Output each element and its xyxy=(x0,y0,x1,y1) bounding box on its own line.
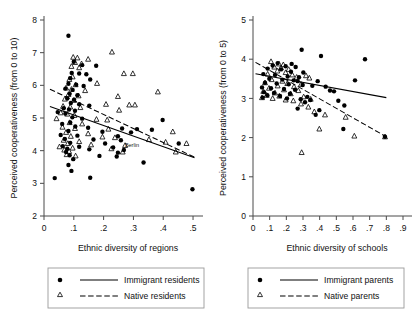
data-point-triangle xyxy=(104,102,109,107)
legend-schools: Immigrant parents Native parents xyxy=(248,268,404,308)
legend-box-regions xyxy=(48,268,204,308)
data-point-triangle xyxy=(83,88,88,93)
data-point-triangle xyxy=(77,139,82,144)
data-point-triangle xyxy=(80,121,85,126)
legend-label-immigrant-parents: Immigrant parents xyxy=(324,275,393,285)
data-point-circle xyxy=(66,163,70,167)
data-point-triangle xyxy=(121,71,126,76)
data-point-circle xyxy=(295,106,299,110)
data-point-triangle xyxy=(130,71,135,76)
annotation-label: Berlin xyxy=(125,142,139,148)
x-ticklabel-regions: .1 xyxy=(70,223,77,233)
x-ticklabel-schools: .5 xyxy=(333,223,340,233)
y-ticklabel-schools: 3 xyxy=(241,94,246,104)
data-point-circle xyxy=(66,33,70,37)
legend-marker-immigrant-parents xyxy=(258,278,263,283)
x-axis-title-schools: Ethnic diversity of schools xyxy=(286,243,388,253)
data-point-circle xyxy=(120,126,124,130)
x-ticklabel-regions: .4 xyxy=(160,223,167,233)
data-point-triangle xyxy=(184,141,189,146)
data-point-triangle xyxy=(71,55,76,60)
data-point-triangle xyxy=(89,142,94,147)
data-point-circle xyxy=(160,118,164,122)
data-point-circle xyxy=(94,64,98,68)
data-point-circle xyxy=(69,169,73,173)
legend-label-native-parents: Native parents xyxy=(324,291,379,301)
data-point-circle xyxy=(115,154,119,158)
data-point-circle xyxy=(315,79,319,83)
y-ticklabel-regions: 8 xyxy=(32,15,37,25)
data-point-circle xyxy=(80,116,84,120)
legend-regions: Immigrant residents Native residents xyxy=(48,268,204,308)
x-axis-title-regions: Ethnic diversity of regions xyxy=(78,243,179,253)
data-point-triangle xyxy=(75,55,80,60)
data-point-circle xyxy=(119,138,123,142)
data-point-circle xyxy=(88,77,92,81)
data-point-circle xyxy=(291,78,295,82)
data-point-circle xyxy=(317,108,321,112)
data-point-circle xyxy=(91,137,95,141)
data-point-triangle xyxy=(70,145,75,150)
data-point-circle xyxy=(135,127,139,131)
data-point-triangle xyxy=(146,137,151,142)
x-ticklabel-schools: .9 xyxy=(399,223,406,233)
x-ticklabel-schools: .7 xyxy=(366,223,373,233)
data-point-triangle xyxy=(94,117,99,122)
data-point-circle xyxy=(323,84,327,88)
legend-box-schools xyxy=(248,268,404,308)
legend-label-immigrant-residents: Immigrant residents xyxy=(124,275,199,285)
y-axis-title-schools: Perceived cooperativeness (from 0 to 5) xyxy=(218,40,228,196)
data-point-circle xyxy=(103,141,107,145)
data-point-circle xyxy=(129,130,133,134)
y-ticklabel-schools: 1 xyxy=(241,172,246,182)
data-point-circle xyxy=(70,71,74,75)
data-point-circle xyxy=(84,72,88,76)
data-point-triangle xyxy=(73,153,78,158)
data-point-circle xyxy=(97,154,101,158)
data-point-circle xyxy=(332,89,336,93)
y-ticklabel-regions: 6 xyxy=(32,80,37,90)
data-point-triangle xyxy=(109,49,114,54)
data-point-circle xyxy=(116,150,120,154)
data-point-triangle xyxy=(68,134,73,139)
data-point-triangle xyxy=(117,107,122,112)
axes-schools: 0123450.1.2.3.4.5.6.7.8.9 xyxy=(241,15,412,233)
data-point-triangle xyxy=(317,126,322,131)
data-point-triangle xyxy=(100,134,105,139)
data-point-triangle xyxy=(132,102,137,107)
x-ticklabel-schools: .2 xyxy=(283,223,290,233)
data-point-circle xyxy=(353,78,357,82)
x-ticklabel-regions: 0 xyxy=(42,223,47,233)
data-point-circle xyxy=(87,103,91,107)
x-ticklabel-regions: .3 xyxy=(130,223,137,233)
data-point-circle xyxy=(100,130,104,134)
data-point-triangle xyxy=(115,94,120,99)
data-point-triangle xyxy=(270,96,275,101)
data-point-circle xyxy=(299,48,303,52)
data-point-triangle xyxy=(155,89,160,94)
y-ticklabel-regions: 2 xyxy=(32,211,37,221)
y-ticklabel-schools: 0 xyxy=(241,211,246,221)
y-ticklabel-regions: 4 xyxy=(32,146,37,156)
data-point-triangle xyxy=(283,70,288,75)
data-point-circle xyxy=(53,176,57,180)
data-point-circle xyxy=(177,141,181,145)
y-ticklabel-regions: 7 xyxy=(32,48,37,58)
data-point-circle xyxy=(303,100,307,104)
data-point-circle xyxy=(86,126,90,130)
data-point-circle xyxy=(313,113,317,117)
x-ticklabel-regions: .2 xyxy=(100,223,107,233)
data-point-triangle xyxy=(323,112,328,117)
data-point-triangle xyxy=(127,102,132,107)
data-point-triangle xyxy=(163,139,168,144)
data-point-circle xyxy=(73,109,77,113)
figure-container: 23456780.1.2.3.4.5 Berlin Ethnic diversi… xyxy=(0,0,418,321)
data-point-triangle xyxy=(299,101,304,106)
y-ticklabel-regions: 5 xyxy=(32,113,37,123)
data-point-circle xyxy=(150,128,154,132)
data-point-circle xyxy=(77,71,81,75)
x-ticklabel-regions: .5 xyxy=(189,223,196,233)
panel-schools-svg: 0123450.1.2.3.4.5.6.7.8.9 Ethnic diversi… xyxy=(209,0,418,321)
data-point-triangle xyxy=(306,104,311,109)
data-point-circle xyxy=(141,160,145,164)
